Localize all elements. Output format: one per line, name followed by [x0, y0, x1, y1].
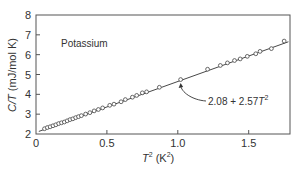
data-point — [123, 98, 127, 102]
data-point — [258, 49, 262, 53]
data-point — [84, 112, 88, 116]
fit-formula: 2.08 + 2.57T2 — [208, 94, 268, 107]
data-point — [92, 109, 96, 113]
y-tick-label: 5 — [25, 69, 31, 81]
data-point — [112, 102, 116, 106]
data-point — [96, 108, 100, 112]
y-tick-label: 3 — [25, 108, 31, 120]
annotation-curve — [181, 85, 206, 101]
data-point — [131, 95, 135, 99]
y-tick-label: 2 — [25, 128, 31, 140]
data-point — [254, 52, 258, 56]
data-point — [145, 90, 149, 94]
x-tick-label: 1.0 — [170, 137, 185, 149]
arrowhead-icon — [179, 83, 184, 88]
x-axis-unit-close: ) — [171, 152, 175, 164]
material-label: Potassium — [61, 38, 108, 49]
y-tick-label: 4 — [25, 88, 31, 100]
data-point — [101, 106, 105, 110]
data-point — [135, 94, 139, 98]
fit-formula-main: 2.08 + 2.57 — [208, 96, 259, 107]
data-point — [218, 64, 222, 68]
data-point — [79, 114, 83, 118]
data-point — [88, 111, 92, 115]
data-point — [206, 67, 210, 71]
data-point — [233, 59, 237, 63]
data-points — [43, 39, 286, 130]
data-point — [245, 54, 249, 58]
y-axis-title: C/T (mJ/mol K) — [6, 38, 18, 112]
y-axis-var: C/T — [6, 93, 18, 112]
annotation-arrow — [179, 83, 206, 101]
data-point — [108, 103, 112, 107]
data-point — [140, 91, 144, 95]
y-axis-unit: (mJ/mol K) — [6, 38, 18, 94]
chart: 00.51.01.52345678 Potassium 2.08 + 2.57T… — [0, 0, 305, 176]
y-tick-label: 7 — [25, 29, 31, 41]
data-point — [119, 100, 123, 104]
data-point — [238, 57, 242, 61]
data-point — [226, 61, 230, 65]
y-tick-label: 8 — [25, 9, 31, 21]
data-point — [269, 47, 273, 51]
x-axis-title: T2 (K2) — [142, 151, 174, 164]
y-tick-label: 6 — [25, 49, 31, 61]
x-tick-label: 0.5 — [99, 137, 114, 149]
data-point — [179, 78, 183, 82]
x-tick-label: 1.5 — [241, 137, 256, 149]
x-axis-unit: (K — [153, 152, 168, 164]
x-tick-label: 0 — [33, 137, 39, 149]
data-point — [282, 39, 286, 43]
axis-ticks: 00.51.01.52345678 — [25, 9, 256, 149]
fit-formula-exp: 2 — [264, 94, 268, 101]
data-point — [157, 85, 161, 89]
